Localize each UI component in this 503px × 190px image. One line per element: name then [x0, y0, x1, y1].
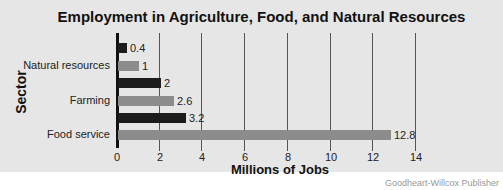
- bar-value-label: 2: [164, 77, 170, 89]
- chart-panel: [0, 0, 503, 172]
- bar: [118, 113, 186, 123]
- bar-value-label: 2.6: [177, 95, 192, 107]
- bar: [118, 130, 391, 140]
- x-tick-label: 2: [157, 151, 163, 163]
- bar: [118, 78, 161, 88]
- y-axis-label: Sector: [13, 62, 29, 122]
- bar: [118, 43, 127, 53]
- chart-title: Employment in Agriculture, Food, and Nat…: [0, 8, 503, 25]
- x-tick-label: 14: [410, 151, 422, 163]
- category-label: Farming: [70, 94, 110, 106]
- x-tick-label: 12: [367, 151, 379, 163]
- bar-value-label: 1: [142, 60, 148, 72]
- category-label: Natural resources: [23, 59, 110, 71]
- bar: [118, 96, 174, 106]
- bar: [118, 61, 139, 71]
- bar-value-label: 3.2: [189, 112, 204, 124]
- x-tick-label: 0: [114, 151, 120, 163]
- bar-value-label: 12.8: [394, 129, 415, 141]
- category-label: Food service: [47, 128, 110, 140]
- credit-text: Goodheart-Willcox Publisher: [385, 178, 499, 188]
- bar-value-label: 0.4: [130, 42, 145, 54]
- x-axis-label: Millions of Jobs: [200, 162, 360, 177]
